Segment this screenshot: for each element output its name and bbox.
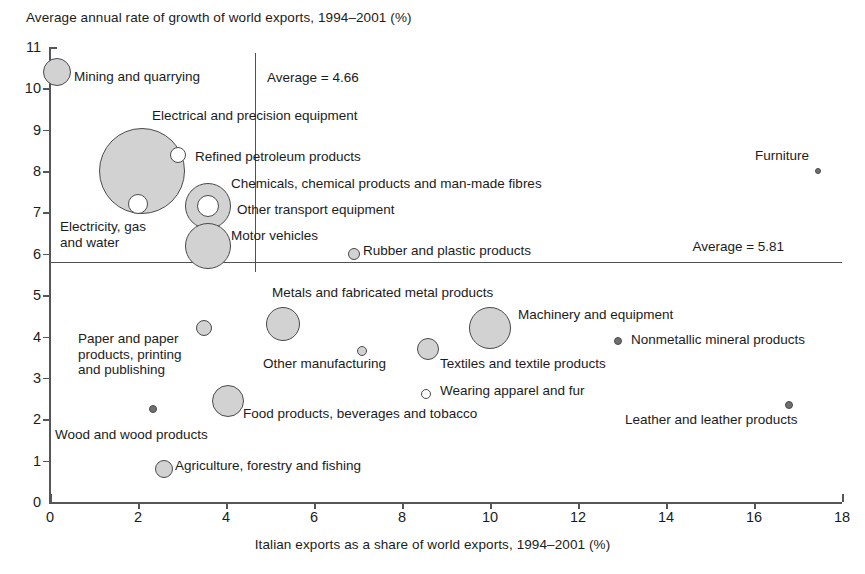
y-tick-mark <box>43 461 50 463</box>
x-tick-label: 14 <box>658 510 674 525</box>
bubble-point[interactable] <box>417 338 439 360</box>
x-tick-mark <box>754 502 756 509</box>
ann-leather: Leather and leather products <box>625 412 798 428</box>
y-tick-mark <box>49 502 57 504</box>
ann-electrical: Electrical and precision equipment <box>152 108 358 124</box>
x-axis-title: Italian exports as a share of world expo… <box>0 537 865 552</box>
x-tick-label: 2 <box>134 510 142 525</box>
ann-othermanuf: Other manufacturing <box>263 356 386 372</box>
ann-textiles: Textiles and textile products <box>440 356 606 372</box>
y-tick-mark <box>43 88 50 90</box>
ann-refined: Refined petroleum products <box>195 149 361 165</box>
y-tick-label: 6 <box>33 247 41 262</box>
bubble-point[interactable] <box>43 58 71 86</box>
y-tick-label: 11 <box>26 40 41 55</box>
y-tick-mark <box>43 171 50 173</box>
ann-motor: Motor vehicles <box>231 228 318 244</box>
y-axis-line <box>49 47 51 502</box>
y-average-line <box>50 262 842 263</box>
bubble-point[interactable] <box>128 194 148 214</box>
bubble-point[interactable] <box>155 460 173 478</box>
bubble-point[interactable] <box>149 405 157 413</box>
y-tick-label: 9 <box>33 122 41 137</box>
x-tick-mark <box>666 502 668 509</box>
y-tick-mark <box>49 47 57 49</box>
y-tick-mark <box>43 212 50 214</box>
y-tick-label: 3 <box>33 371 41 386</box>
bubble-point[interactable] <box>212 385 244 417</box>
bubble-point[interactable] <box>815 168 821 174</box>
y-tick-label: 7 <box>33 205 41 220</box>
ann-metals: Metals and fabricated metal products <box>272 285 493 301</box>
bubble-point[interactable] <box>614 337 622 345</box>
x-tick-mark <box>490 502 492 509</box>
x-tick-label: 12 <box>570 510 586 525</box>
ann-othertransport: Other transport equipment <box>237 202 395 218</box>
x-tick-mark <box>578 502 580 509</box>
ann-wearing: Wearing apparel and fur <box>440 383 585 399</box>
x-tick-mark <box>50 494 52 502</box>
bubble-point[interactable] <box>785 401 793 409</box>
bubble-point[interactable] <box>357 346 367 356</box>
y-tick-mark <box>43 378 50 380</box>
y-tick-label: 10 <box>25 81 41 96</box>
ann-furniture: Furniture <box>755 148 809 164</box>
ann-food: Food products, beverages and tobacco <box>243 406 477 422</box>
bubble-point[interactable] <box>170 147 186 163</box>
bubble-chart: Average annual rate of growth of world e… <box>0 0 865 574</box>
y-tick-label: 8 <box>33 164 41 179</box>
bubble-point[interactable] <box>421 389 431 399</box>
y-tick-label: 2 <box>33 412 41 427</box>
x-tick-mark <box>842 494 844 502</box>
x-tick-label: 0 <box>46 510 54 525</box>
y-tick-mark <box>43 130 50 132</box>
x-tick-mark <box>226 502 228 509</box>
ann-agriculture: Agriculture, forestry and fishing <box>175 458 361 474</box>
bubble-point[interactable] <box>348 248 360 260</box>
ann-nonmetallic: Nonmetallic mineral products <box>631 332 805 348</box>
y-tick-label: 4 <box>33 329 41 344</box>
ann-paper: Paper and paper products, printing and p… <box>78 331 182 378</box>
x-tick-label: 18 <box>834 510 850 525</box>
x-average-label: Average = 4.66 <box>267 70 359 85</box>
x-tick-label: 8 <box>398 510 406 525</box>
x-tick-mark <box>402 502 404 509</box>
bubble-point[interactable] <box>266 307 300 341</box>
y-tick-label: 0 <box>33 495 41 510</box>
y-tick-label: 1 <box>33 453 41 468</box>
y-average-label: Average = 5.81 <box>692 239 784 254</box>
x-tick-label: 16 <box>746 510 762 525</box>
x-tick-label: 6 <box>310 510 318 525</box>
bubble-point[interactable] <box>469 307 511 349</box>
x-tick-mark <box>314 502 316 509</box>
chart-title: Average annual rate of growth of world e… <box>26 10 412 25</box>
y-tick-mark <box>43 254 50 256</box>
ann-wood: Wood and wood products <box>55 427 208 443</box>
x-tick-label: 10 <box>482 510 498 525</box>
y-tick-mark <box>43 295 50 297</box>
ann-rubber: Rubber and plastic products <box>363 243 531 259</box>
ann-chemicals: Chemicals, chemical products and man-mad… <box>231 176 542 192</box>
y-tick-mark <box>43 337 50 339</box>
bubble-point[interactable] <box>185 223 231 269</box>
x-tick-label: 4 <box>222 510 230 525</box>
bubble-point[interactable] <box>196 320 212 336</box>
x-axis-line <box>50 502 842 504</box>
bubble-point[interactable] <box>197 195 219 217</box>
x-tick-mark <box>138 502 140 509</box>
ann-electricity: Electricity, gas and water <box>60 219 146 250</box>
y-tick-label: 5 <box>33 288 41 303</box>
y-tick-mark <box>43 419 50 421</box>
ann-machinery: Machinery and equipment <box>518 307 673 323</box>
ann-mining: Mining and quarrying <box>74 69 200 85</box>
